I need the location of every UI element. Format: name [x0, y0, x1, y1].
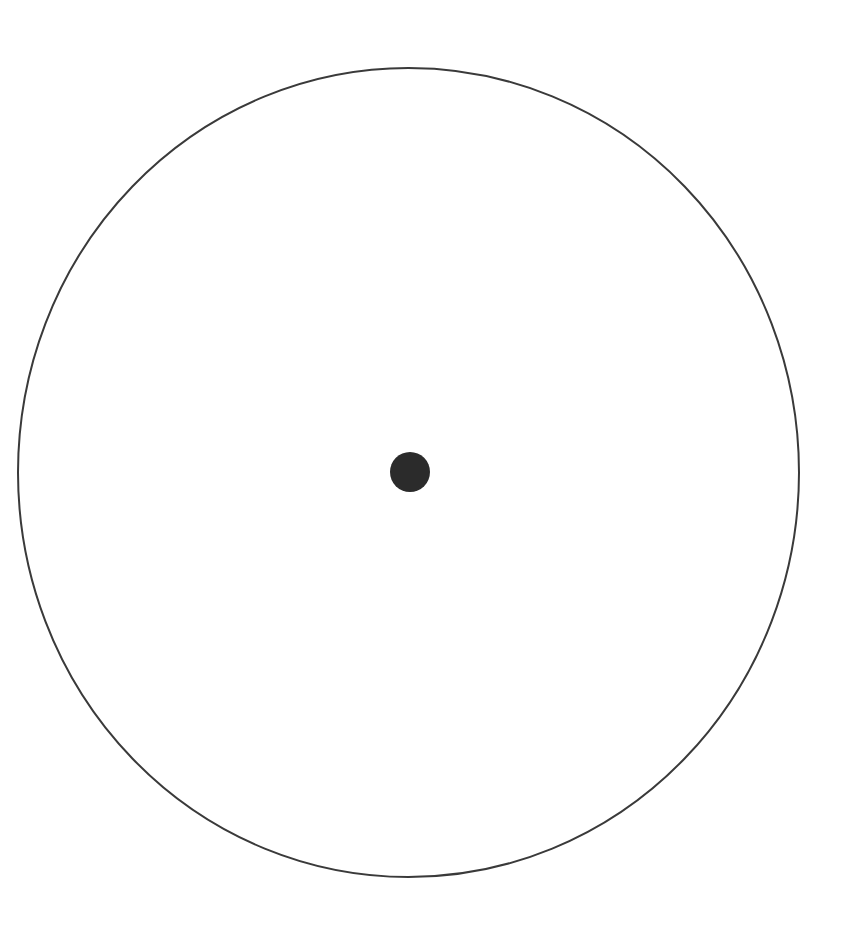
center-dot	[390, 452, 430, 492]
diagram-canvas	[0, 0, 850, 933]
